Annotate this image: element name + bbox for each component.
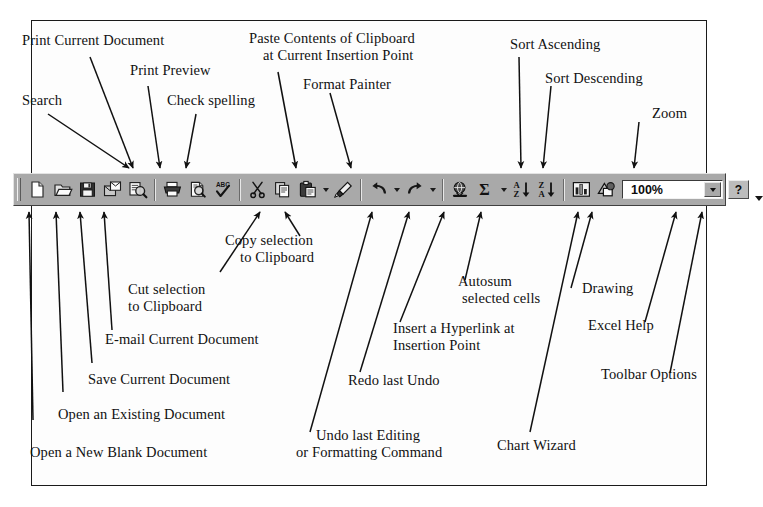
zoom-value[interactable]: 100% [623,181,703,198]
sort-ascending-icon[interactable]: A Z [509,177,534,202]
bar-chart-icon[interactable] [569,177,594,202]
question-mark-icon[interactable]: ? [728,180,749,199]
toolbar-separator [154,179,156,201]
callout-excel-help: Excel Help [588,317,654,334]
callout-print-current-document: Print Current Document [22,32,164,49]
printer-icon[interactable] [160,177,185,202]
callout-autosum-line1: Autosum [458,273,512,290]
sort-descending-icon[interactable]: Z A [534,177,559,202]
callout-print-preview: Print Preview [130,62,211,79]
callout-autosum-line2: selected cells [462,290,540,307]
callout-format-painter: Format Painter [303,76,391,93]
svg-text:Σ: Σ [479,181,489,198]
copy-pages-icon[interactable] [270,177,295,202]
standard-toolbar[interactable]: ABC [13,173,726,206]
print-preview-icon[interactable] [185,177,210,202]
search-icon[interactable] [125,177,150,202]
callout-toolbar-options: Toolbar Options [601,366,697,383]
callout-zoom: Zoom [652,105,687,122]
toolbar-separator [360,179,362,201]
callout-search: Search [22,92,62,109]
callout-undo-line2: or Formatting Command [296,444,442,461]
new-document-icon[interactable] [25,177,50,202]
clipboard-paste-icon[interactable] [295,177,320,202]
email-envelope-icon[interactable] [100,177,125,202]
paintbrush-icon[interactable] [331,177,356,202]
open-folder-icon[interactable] [50,177,75,202]
callout-chart-wizard: Chart Wizard [497,437,576,454]
callout-sort-ascending: Sort Ascending [510,36,600,53]
sigma-icon[interactable]: Σ [473,177,498,202]
globe-link-icon[interactable] [448,177,473,202]
callout-cut-selection-line1: Cut selection [128,281,205,298]
callout-open-new-blank-document: Open a New Blank Document [30,444,207,461]
callout-open-existing-document: Open an Existing Document [58,406,225,423]
undo-arrow-icon[interactable] [366,177,391,202]
zoom-combobox[interactable]: 100% [622,180,723,199]
undo-dropdown-arrow-icon[interactable] [391,177,402,202]
callout-copy-selection-line1: Copy selection [225,232,313,249]
callout-email-current-document: E-mail Current Document [105,331,259,348]
zoom-dropdown-arrow-icon[interactable] [704,182,721,197]
callout-copy-selection-line2: to Clipboard [240,249,314,266]
callout-redo-last-undo: Redo last Undo [348,372,440,389]
toolbar-separator [442,179,444,201]
redo-dropdown-arrow-icon[interactable] [427,177,438,202]
drawing-shapes-icon[interactable] [594,177,619,202]
floppy-disk-icon[interactable] [75,177,100,202]
autosum-dropdown-arrow-icon[interactable] [498,177,509,202]
callout-undo-line1: Undo last Editing [316,427,420,444]
spell-check-abc-icon[interactable]: ABC [210,177,235,202]
redo-arrow-icon[interactable] [402,177,427,202]
callout-paste-contents-line1: Paste Contents of Clipboard [249,30,415,47]
callout-check-spelling: Check spelling [167,92,255,109]
toolbar-drag-grip[interactable] [17,178,21,201]
callout-paste-contents-line2: at Current Insertion Point [263,47,413,64]
toolbar-separator [563,179,565,201]
callout-hyperlink-line1: Insert a Hyperlink at [393,320,515,337]
svg-text:Z: Z [513,189,519,199]
paste-dropdown-arrow-icon[interactable] [320,177,331,202]
chevron-down-icon[interactable] [755,196,763,201]
callout-cut-selection-line2: to Clipboard [128,298,202,315]
toolbar-separator [239,179,241,201]
callout-sort-descending: Sort Descending [545,70,643,87]
callout-hyperlink-line2: Insertion Point [393,337,480,354]
scissors-icon[interactable] [245,177,270,202]
callout-drawing: Drawing [582,280,633,297]
svg-text:A: A [538,189,545,199]
callout-save-current-document: Save Current Document [88,371,230,388]
